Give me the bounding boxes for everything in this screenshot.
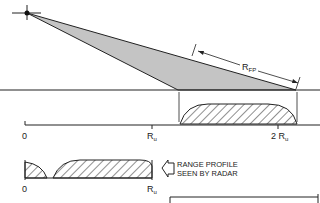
lower-label-ru: Ru [147, 184, 157, 195]
lower-label-zero: 0 [22, 184, 27, 194]
radar-range-ambiguity-diagram: RFP 0 Ru 2 Ru 0 Ru RANGE PROFILE SEEN BY… [0, 0, 320, 203]
true-range-profile [180, 104, 297, 124]
radar-beam [27, 13, 296, 90]
folded-profile-near [25, 162, 47, 178]
caption-line-2: SEEN BY RADAR [177, 169, 238, 178]
folded-profile-main [53, 160, 152, 178]
axis-label-2ru: 2 Ru [271, 131, 288, 142]
caption-line-1: RANGE PROFILE [177, 160, 238, 169]
axis-label-zero: 0 [22, 131, 27, 141]
axis-label-ru: Ru [147, 131, 157, 142]
footprint-label: RFP [242, 62, 256, 73]
hollow-left-arrow-icon [162, 160, 174, 177]
